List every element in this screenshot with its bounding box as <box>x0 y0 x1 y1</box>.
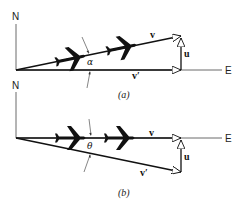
vector-v-label: v <box>150 29 155 40</box>
vector-v-label: v <box>149 127 154 138</box>
angle-pointer-top <box>82 37 89 53</box>
vector-v <box>16 36 181 70</box>
north-label: N <box>12 11 19 22</box>
airplane-icon <box>104 33 139 63</box>
angle-pointer-bottom <box>87 72 90 88</box>
caption-a: (a) <box>118 89 130 101</box>
angle-theta-label: θ <box>87 141 93 151</box>
angle-pointer-bottom <box>84 155 90 172</box>
airplane-icon <box>104 126 135 150</box>
velocity-diagram: N E v′ v u α (a) N E v <box>0 0 239 203</box>
vector-v-prime-label: v′ <box>140 167 148 178</box>
north-label: N <box>12 80 19 91</box>
diagram-a: N E v′ v u α (a) <box>12 11 232 101</box>
east-label: E <box>225 133 232 144</box>
angle-alpha-label: α <box>87 57 93 67</box>
angle-pointer-top <box>89 119 91 135</box>
vector-u-label: u <box>184 48 190 59</box>
vector-v-prime <box>16 138 181 172</box>
caption-b: (b) <box>118 187 130 199</box>
vector-u-label: u <box>184 151 190 162</box>
vector-v-prime-label: v′ <box>132 70 140 81</box>
east-label: E <box>225 65 232 76</box>
